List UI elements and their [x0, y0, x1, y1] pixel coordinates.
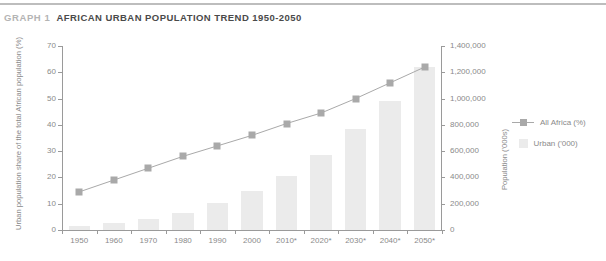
y-right-tick-label: 1,200,000 [450, 68, 486, 76]
x-axis-tick [166, 230, 167, 234]
marker-2020proj [318, 110, 325, 117]
y-left-tick [58, 72, 62, 73]
x-axis-tick [269, 230, 270, 234]
x-axis-tick [97, 230, 98, 234]
x-axis-label-1970: 1970 [131, 236, 166, 245]
line-path-all-africa [79, 67, 424, 192]
legend-line-marker-icon [512, 118, 534, 127]
page-title: AFRICAN URBAN POPULATION TREND 1950-2050 [56, 12, 301, 23]
legend-bar-swatch-icon [519, 139, 528, 148]
x-axis-label-2050proj: 2050* [407, 236, 442, 245]
marker-2010proj [283, 120, 290, 127]
marker-2030proj [352, 95, 359, 102]
legend-item-urban[interactable]: Urban ('000) [512, 139, 586, 148]
legend-label-urban: Urban ('000) [534, 139, 578, 148]
x-axis-tick [235, 230, 236, 234]
y-right-tick [441, 177, 445, 178]
x-axis-line [62, 230, 442, 231]
marker-2000 [249, 132, 256, 139]
x-axis-label-2040proj: 2040* [373, 236, 408, 245]
y-left-tick [58, 151, 62, 152]
y-right-tick [441, 72, 445, 73]
x-axis-tick [131, 230, 132, 234]
marker-2040proj [387, 79, 394, 86]
marker-1970 [145, 165, 152, 172]
marker-2050proj [421, 64, 428, 71]
x-axis-label-2020proj: 2020* [304, 236, 339, 245]
y-left-tick-label: 40 [47, 121, 56, 129]
y-left-tick-label: 10 [47, 200, 56, 208]
y-left-tick-label: 60 [47, 68, 56, 76]
graph-kicker: GRAPH 1 [4, 12, 50, 23]
y-right-tick [441, 46, 445, 47]
y-right-tick-label: 0 [450, 226, 454, 234]
x-axis-label-2000: 2000 [235, 236, 270, 245]
x-axis-tick [442, 230, 443, 234]
x-axis-tick [62, 230, 63, 234]
legend-label-all-africa: All Africa (%) [540, 118, 586, 127]
y-left-tick [58, 125, 62, 126]
chart-legend: All Africa (%) Urban ('000) [512, 118, 586, 148]
y-right-tick-label: 1,000,000 [450, 95, 486, 103]
y-right-tick-label: 800,000 [450, 121, 479, 129]
chart-title-bar: GRAPH 1 AFRICAN URBAN POPULATION TREND 1… [4, 12, 302, 23]
x-axis-tick [407, 230, 408, 234]
marker-1980 [179, 153, 186, 160]
x-axis-label-1980: 1980 [166, 236, 201, 245]
x-axis-label-1950: 1950 [62, 236, 97, 245]
y-right-tick-label: 1,400,000 [450, 42, 486, 50]
y-right-tick [441, 125, 445, 126]
y-axis-left-title: Urban population share of the total Afri… [14, 37, 23, 230]
x-axis-label-1960: 1960 [97, 236, 132, 245]
y-left-tick-label: 30 [47, 147, 56, 155]
y-left-tick-label: 20 [47, 173, 56, 181]
chart-figure: GRAPH 1 AFRICAN URBAN POPULATION TREND 1… [0, 0, 606, 261]
y-axis-right-title: Population ('000s) [500, 129, 509, 190]
y-left-tick-label: 50 [47, 95, 56, 103]
y-right-tick [441, 151, 445, 152]
y-right-tick-label: 400,000 [450, 173, 479, 181]
x-axis-tick [304, 230, 305, 234]
y-right-tick [441, 204, 445, 205]
x-axis-label-1990: 1990 [200, 236, 235, 245]
y-left-tick [58, 177, 62, 178]
x-axis-label-2010proj: 2010* [269, 236, 304, 245]
marker-1990 [214, 142, 221, 149]
marker-1950 [76, 188, 83, 195]
y-left-tick [58, 46, 62, 47]
y-left-tick-label: 0 [52, 226, 56, 234]
y-right-tick-label: 600,000 [450, 147, 479, 155]
top-divider [0, 3, 606, 5]
y-left-tick [58, 99, 62, 100]
y-right-tick-label: 200,000 [450, 200, 479, 208]
x-axis-label-2030proj: 2030* [338, 236, 373, 245]
marker-1960 [110, 177, 117, 184]
x-axis-tick [200, 230, 201, 234]
legend-item-all-africa[interactable]: All Africa (%) [512, 118, 586, 127]
x-axis-tick [373, 230, 374, 234]
plot-area: 010203040506070 0200,000400,000600,00080… [62, 46, 442, 230]
y-right-tick [441, 99, 445, 100]
y-left-tick [58, 204, 62, 205]
x-axis-tick [338, 230, 339, 234]
y-left-tick-label: 70 [47, 42, 56, 50]
